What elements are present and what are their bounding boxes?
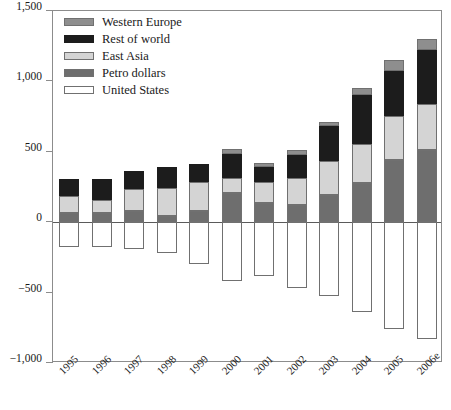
bar-segment[interactable] xyxy=(222,222,242,281)
bar-group[interactable] xyxy=(417,11,437,361)
bar-group[interactable] xyxy=(287,11,307,361)
bar-segment[interactable] xyxy=(222,193,242,222)
bar-segment[interactable] xyxy=(254,203,274,223)
y-axis-tick-label: 1,500 xyxy=(16,1,42,13)
bar-group[interactable] xyxy=(352,11,372,361)
stacked-bar-chart: −1,000−50005001,0001,500 199519961997199… xyxy=(0,0,451,410)
bar-segment[interactable] xyxy=(287,178,307,204)
y-axis-tick-mark xyxy=(46,362,53,363)
bar-segment[interactable] xyxy=(254,222,274,276)
bar-segment[interactable] xyxy=(319,222,339,295)
bar-segment[interactable] xyxy=(222,178,242,193)
bar-segment[interactable] xyxy=(384,160,404,223)
bar-segment[interactable] xyxy=(319,126,339,160)
bar-segment[interactable] xyxy=(352,88,372,95)
bar-segment[interactable] xyxy=(59,222,79,246)
bar-group[interactable] xyxy=(254,11,274,361)
y-axis-tick-label: 1,000 xyxy=(16,71,42,83)
bar-segment[interactable] xyxy=(417,222,437,339)
bar-segment[interactable] xyxy=(254,182,274,203)
bar-segment[interactable] xyxy=(157,188,177,216)
y-axis-tick-label: −500 xyxy=(18,283,42,295)
bar-group[interactable] xyxy=(384,11,404,361)
bar-segment[interactable] xyxy=(417,104,437,150)
bar-segment[interactable] xyxy=(124,222,144,248)
bar-segment[interactable] xyxy=(124,189,144,212)
legend-item[interactable]: Western Europe xyxy=(64,14,214,30)
legend-item-label: East Asia xyxy=(102,50,149,63)
legend-swatch-icon xyxy=(64,69,94,77)
bar-segment[interactable] xyxy=(59,196,79,214)
bar-segment[interactable] xyxy=(254,167,274,182)
chart-legend: Western EuropeRest of worldEast AsiaPetr… xyxy=(64,14,214,99)
bar-segment[interactable] xyxy=(254,163,274,168)
bar-segment[interactable] xyxy=(59,213,79,222)
bar-segment[interactable] xyxy=(319,195,339,222)
bar-segment[interactable] xyxy=(189,211,209,222)
bar-segment[interactable] xyxy=(384,71,404,116)
bar-segment[interactable] xyxy=(417,150,437,222)
legend-item[interactable]: East Asia xyxy=(64,48,214,64)
bar-segment[interactable] xyxy=(124,171,144,189)
bar-group[interactable] xyxy=(222,11,242,361)
bar-segment[interactable] xyxy=(92,179,112,200)
bar-segment[interactable] xyxy=(319,161,339,195)
y-axis-tick-label: −1,000 xyxy=(10,353,42,365)
bar-segment[interactable] xyxy=(92,213,112,222)
bar-segment[interactable] xyxy=(222,154,242,178)
bar-segment[interactable] xyxy=(157,222,177,253)
bar-segment[interactable] xyxy=(59,179,79,196)
legend-item-label: United States xyxy=(102,84,169,97)
y-axis-tick-label: 500 xyxy=(25,142,42,154)
bar-segment[interactable] xyxy=(287,150,307,155)
legend-item[interactable]: Rest of world xyxy=(64,31,214,47)
bar-segment[interactable] xyxy=(124,211,144,222)
y-axis-tick-label: 0 xyxy=(36,212,42,224)
bar-segment[interactable] xyxy=(384,222,404,329)
bar-segment[interactable] xyxy=(352,183,372,222)
bar-segment[interactable] xyxy=(352,95,372,144)
bar-segment[interactable] xyxy=(384,60,404,71)
bar-segment[interactable] xyxy=(222,149,242,154)
bar-segment[interactable] xyxy=(417,39,437,50)
legend-swatch-icon xyxy=(64,86,94,94)
bar-segment[interactable] xyxy=(352,144,372,183)
bar-segment[interactable] xyxy=(287,222,307,287)
bar-segment[interactable] xyxy=(189,164,209,183)
bar-group[interactable] xyxy=(319,11,339,361)
bar-segment[interactable] xyxy=(384,116,404,160)
legend-swatch-icon xyxy=(64,52,94,60)
bar-segment[interactable] xyxy=(287,155,307,179)
legend-item-label: Petro dollars xyxy=(102,67,166,80)
bar-segment[interactable] xyxy=(157,167,177,188)
legend-item[interactable]: Petro dollars xyxy=(64,65,214,81)
legend-item[interactable]: United States xyxy=(64,82,214,98)
legend-swatch-icon xyxy=(64,18,94,26)
bar-segment[interactable] xyxy=(319,122,339,127)
legend-item-label: Rest of world xyxy=(102,33,170,46)
bar-segment[interactable] xyxy=(189,182,209,211)
bar-segment[interactable] xyxy=(352,222,372,312)
bar-segment[interactable] xyxy=(189,222,209,264)
legend-item-label: Western Europe xyxy=(102,16,182,29)
bar-segment[interactable] xyxy=(92,222,112,246)
bar-segment[interactable] xyxy=(287,205,307,223)
legend-swatch-icon xyxy=(64,35,94,43)
bar-segment[interactable] xyxy=(92,200,112,214)
bar-segment[interactable] xyxy=(417,50,437,104)
